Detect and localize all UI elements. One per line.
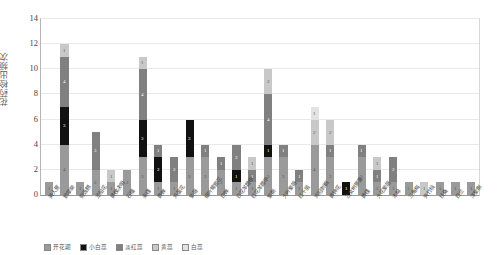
x-axis-tick-labels: 美人蕉鹅掌柴假连翘龙船花黄槐决明石榴朱槿黄蝉鸡蛋花紫薇细叶萼距花白蝉白花羊蹄甲红… [41,197,481,237]
bar-segment-value: 1 [110,174,112,179]
bar-segment: 1 [358,145,366,158]
bar-segment: 1 [373,157,381,170]
bar-segment: 1 [139,57,147,70]
bar-column[interactable]: 112 [232,145,240,195]
bar-column[interactable]: 4341 [60,44,68,195]
bar-segment-value: 1 [360,149,362,154]
legend-item[interactable]: 开花期 [44,243,71,251]
legend-label: 小白蕊 [89,243,107,251]
bar-column[interactable]: 33 [186,120,194,195]
bar-segment-value: 2 [267,79,269,84]
legend-swatch [116,244,123,251]
bar-segment-value: 3 [329,174,331,179]
legend-item[interactable]: 小白蕊 [80,243,107,251]
y-axis-tick-label: 8 [34,88,38,98]
bar-segment-value: 1 [235,174,237,179]
bar-segment: 4 [60,57,68,107]
bar-segment-value: 2 [235,155,237,160]
bar-segment: 3 [186,120,194,158]
bar-segment: 2 [389,157,397,182]
bar-segment: 1 [248,157,256,170]
bar-segment: 1 [217,157,225,170]
bar-segment-value: 3 [141,136,143,141]
bar-column[interactable]: 3341 [139,57,147,195]
bar-segment-value: 1 [298,174,300,179]
bar-segment-value: 3 [188,174,190,179]
bar-segment: 2 [311,120,319,145]
bar-segment-value: 1 [267,149,269,154]
bar-segment-value: 3 [95,149,97,154]
bar-segment-value: 4 [63,79,65,84]
y-axis-tick-label: 12 [30,38,39,48]
bar-segment-value: 3 [63,123,65,128]
bar-segment-value: 3 [204,174,206,179]
bar-segment-value: 4 [141,92,143,97]
bar-segment: 2 [232,145,240,170]
bar-column[interactable]: 31 [358,145,366,195]
y-axis-tick-label: 10 [30,63,39,73]
y-axis-tick-label: 6 [34,114,38,124]
bar-segment-value: 2 [95,180,97,185]
legend-swatch [182,244,189,251]
bar-column[interactable]: 23 [92,132,100,195]
bar-segment: 1 [264,145,272,158]
bar-segment-value: 1 [329,149,331,154]
bar-segment-value: 3 [282,174,284,179]
y-axis-tick-labels: 02468101214 [18,18,38,196]
legend-swatch [44,244,51,251]
bar-segment-value: 4 [314,167,316,172]
bar-segment: 2 [170,157,178,182]
bar-segment: 3 [60,107,68,145]
y-axis-tick-label: 0 [34,189,38,199]
bar-segment-value: 1 [204,149,206,154]
bar-segment: 1 [279,145,287,158]
legend-item[interactable]: 黄蕊 [152,243,173,251]
bar-segment-value: 1 [220,161,222,166]
y-axis-title: 花药检出频次 [1,52,15,106]
bar-segment: 1 [295,170,303,183]
bar-segment: 1 [201,145,209,158]
bar-segment-value: 3 [141,174,143,179]
bar-segment: 3 [92,132,100,170]
bar-segment-value: 2 [173,167,175,172]
bar-segment: 1 [232,170,240,183]
bar-segment-value: 1 [376,174,378,179]
y-axis-tick-label: 14 [30,13,39,23]
legend-label: 淡红蕊 [125,243,143,251]
bar-segment-value: 1 [141,61,143,66]
legend-item[interactable]: 白蕊 [182,243,203,251]
bar-segment-value: 3 [188,136,190,141]
bar-segment: 1 [107,170,115,183]
bar-segment-value: 1 [314,111,316,116]
bar-segment-value: 1 [157,149,159,154]
bar-segment-value: 4 [63,167,65,172]
bar-segment-value: 1 [48,186,50,191]
legend-item[interactable]: 淡红蕊 [116,243,143,251]
bar-segment: 4 [139,69,147,119]
legend-label: 白蕊 [191,243,203,251]
bar-segment: 2 [326,120,334,145]
bar-column[interactable]: 421 [311,107,319,195]
bar-segment: 1 [326,145,334,158]
bar-segment-value: 1 [235,186,237,191]
bar-segment: 1 [60,44,68,57]
bar-segment: 1 [311,107,319,120]
bar-segment-value: 1 [376,161,378,166]
bar-segment-value: 2 [126,180,128,185]
bar-segment-value: 1 [407,186,409,191]
bar-segment-value: 2 [392,167,394,172]
bar-segment-value: 1 [63,48,65,53]
bar-segment: 1 [373,170,381,183]
bar-segment: 3 [139,120,147,158]
y-axis-tick-label: 4 [34,139,38,149]
bar-series-container: 1434112311233411211233312111211131423111… [41,19,479,195]
legend-label: 黄蕊 [161,243,173,251]
legend-swatch [80,244,87,251]
chart-legend: 开花期小白蕊淡红蕊黄蕊白蕊 [44,243,494,255]
bar-segment-value: 2 [329,130,331,135]
bar-segment: 2 [154,157,162,182]
bar-segment-value: 1 [251,161,253,166]
bar-segment-value: 2 [314,130,316,135]
bar-segment-value: 1 [282,149,284,154]
